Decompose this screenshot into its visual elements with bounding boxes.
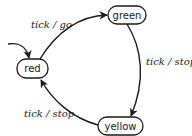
state-red-label: red: [24, 63, 40, 74]
initial-state-arrow: [8, 44, 29, 58]
transition-green-to-yellow: [127, 24, 140, 116]
state-green-label: green: [113, 10, 142, 21]
label-green-to-yellow: tick / stop: [146, 56, 192, 67]
label-red-to-green: tick / go: [31, 19, 72, 30]
label-yellow-to-red: tick / stop: [24, 108, 75, 119]
state-yellow: yellow: [98, 117, 143, 135]
state-red: red: [17, 59, 48, 78]
state-yellow-label: yellow: [105, 121, 137, 132]
state-green: green: [108, 6, 146, 24]
state-diagram: tick / go tick / stop tick / stop red gr…: [0, 0, 192, 136]
